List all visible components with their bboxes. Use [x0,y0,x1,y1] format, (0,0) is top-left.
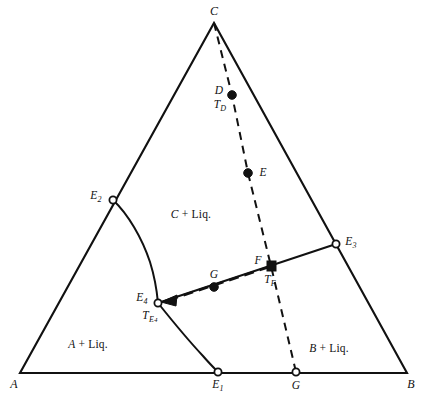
e4-subscript: 4 [144,297,148,306]
arrowhead-toward-e4 [161,295,177,306]
region-a-rest: + Liq. [75,338,107,350]
point-label-d: D [215,85,224,97]
temperature-label-te4: TE4 [142,310,157,324]
region-c-rest: + Liq. [179,208,211,220]
eutectic-label-e4: E4 [136,292,147,306]
marker-e1 [214,368,221,375]
point-label-f: F [254,255,261,267]
cotectic-curve-e2-e4 [113,200,158,303]
eutectic-label-e1: E1 [212,379,223,393]
triangle-outline [20,23,407,373]
td-subscript: D [220,104,226,113]
diagram-canvas [0,0,423,400]
marker-g-base [292,368,299,375]
marker-point-e [244,169,253,178]
marker-point-d [228,91,237,100]
e2-subscript: 2 [98,195,102,204]
eutectic-label-e3: E3 [345,236,356,250]
te4-subscript2: 4 [154,316,158,324]
region-c-symbol: C [171,208,179,220]
point-label-g-base: G [292,380,301,392]
e1-subscript: 1 [220,384,224,393]
marker-e3 [332,240,339,247]
crystallization-path-dashed [214,23,296,372]
vertex-label-a: A [10,378,18,390]
marker-point-g-interior [210,283,219,292]
temperature-label-tf: TF [264,274,276,288]
point-label-e: E [259,167,266,179]
te4-base: T [142,309,149,321]
region-label-c-liq: C + Liq. [171,209,211,221]
temperature-label-td: TD [214,99,227,113]
marker-e4 [154,299,161,306]
e3-subscript: 3 [353,241,357,250]
vertex-label-c: C [210,5,218,17]
ternary-phase-diagram-figure: A B C E1 E2 E3 E4 TE4 D TD E F TF G G A … [0,0,423,400]
tf-subscript: F [271,279,276,288]
region-label-a-liq: A + Liq. [68,339,108,351]
vertex-label-b: B [407,378,415,390]
region-label-b-liq: B + Liq. [309,343,349,355]
eutectic-label-e2: E2 [90,190,101,204]
td-base: T [214,98,221,110]
cotectic-curve-e4-e1 [158,303,218,372]
region-b-rest: + Liq. [316,342,348,354]
marker-point-f [267,261,276,271]
marker-e2 [109,196,116,203]
point-label-g-interior: G [210,269,219,281]
